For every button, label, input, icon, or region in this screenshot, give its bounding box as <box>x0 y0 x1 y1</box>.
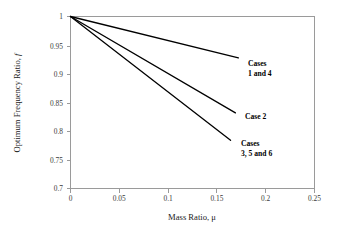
line-chart: 0.7 0.75 0.8 0.85 0.9 0.95 1 0 0.05 0.1 … <box>0 0 340 230</box>
annotation-label-2-line2: 3, 5 and 6 <box>241 149 272 158</box>
chart-page: 0.7 0.75 0.8 0.85 0.9 0.95 1 0 0.05 0.1 … <box>0 0 340 230</box>
x-tick-label-0: 0 <box>69 194 73 203</box>
y-tick-label-3: 0.85 <box>50 99 63 108</box>
y-axis-title-symbol: f <box>12 52 22 56</box>
y-tick-label-1: 0.75 <box>50 156 63 165</box>
series-line-1 <box>71 17 236 113</box>
y-tick-label-4: 0.9 <box>54 70 64 79</box>
annotation-label-0-line1: Cases <box>248 59 267 68</box>
y-tick-label-5: 0.95 <box>50 42 63 51</box>
series-line-2 <box>71 17 231 141</box>
plot-frame <box>71 17 315 189</box>
x-tick-label-1: 0.05 <box>113 194 126 203</box>
y-axis-ticks <box>67 17 71 189</box>
y-axis-title-main: Optimum Frequency Ratio, <box>12 56 22 152</box>
y-tick-label-0: 0.7 <box>54 184 64 193</box>
y-axis-tick-labels: 0.7 0.75 0.8 0.85 0.9 0.95 1 <box>50 12 63 193</box>
annotation-group: Cases 1 and 4 Case 2 Cases 3, 5 and 6 <box>241 59 272 158</box>
annotation-label-2-line1: Cases <box>241 139 260 148</box>
y-axis-title: Optimum Frequency Ratio, f <box>12 52 22 152</box>
y-tick-label-6: 1 <box>59 12 63 21</box>
data-series-group <box>71 17 239 141</box>
x-tick-label-4: 0.2 <box>261 194 271 203</box>
x-tick-label-5: 0.25 <box>308 194 321 203</box>
series-line-0 <box>71 17 239 58</box>
annotation-label-0-line2: 1 and 4 <box>248 69 272 78</box>
x-axis-tick-labels: 0 0.05 0.1 0.15 0.2 0.25 <box>69 194 322 203</box>
x-axis-title: Mass Ratio, μ <box>168 212 216 222</box>
y-tick-label-2: 0.8 <box>54 127 64 136</box>
annotation-label-1-line1: Case 2 <box>245 112 267 121</box>
x-tick-label-2: 0.1 <box>163 194 173 203</box>
x-axis-ticks <box>71 189 315 193</box>
x-tick-label-3: 0.15 <box>210 194 223 203</box>
